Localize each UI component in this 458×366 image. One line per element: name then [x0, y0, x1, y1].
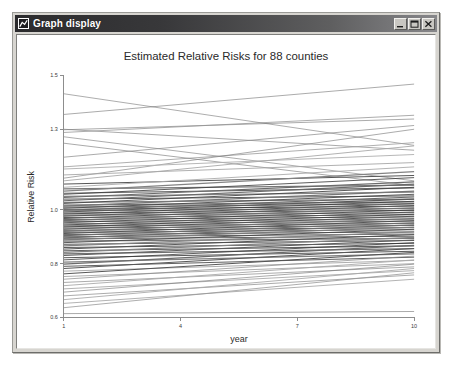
maximize-icon — [409, 19, 420, 29]
chart-background — [17, 35, 435, 348]
y-tick-label: 1.0 — [50, 207, 58, 213]
y-axis-label: Relative Risk — [26, 171, 36, 223]
graph-window-icon — [18, 18, 29, 29]
minimize-icon — [395, 19, 406, 29]
y-tick-label: 1.5 — [50, 72, 58, 78]
x-axis-label: year — [230, 334, 247, 344]
chart-title: Estimated Relative Risks for 88 counties — [124, 50, 329, 62]
window-titlebar[interactable]: Graph display — [15, 15, 437, 32]
window-client-area: Estimated Relative Risks for 88 counties… — [16, 34, 436, 349]
close-icon — [423, 19, 434, 29]
x-tick-label: 1 — [62, 323, 65, 329]
screen: Graph display — [0, 0, 458, 366]
close-button[interactable] — [422, 18, 435, 30]
window-title: Graph display — [33, 18, 394, 29]
y-tick-label: 0.8 — [50, 261, 58, 267]
y-tick-label: 0.6 — [50, 314, 58, 320]
maximize-button[interactable] — [408, 18, 421, 30]
x-tick-label: 7 — [296, 323, 299, 329]
chart-container: Estimated Relative Risks for 88 counties… — [17, 35, 435, 348]
graph-display-window: Graph display — [12, 12, 440, 353]
x-tick-label: 4 — [179, 323, 182, 329]
y-tick-label: 1.3 — [50, 126, 58, 132]
relative-risk-line-chart: Estimated Relative Risks for 88 counties… — [17, 35, 435, 348]
window-buttons — [394, 18, 435, 30]
x-tick-label: 10 — [411, 323, 417, 329]
minimize-button[interactable] — [394, 18, 407, 30]
